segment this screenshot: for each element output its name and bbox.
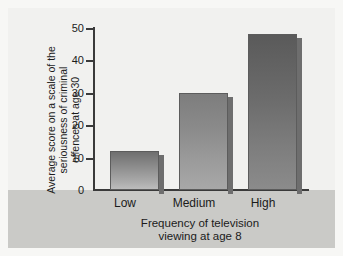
x-axis-title-line-1: Frequency of television [94, 217, 306, 230]
bar-low-body [110, 151, 159, 190]
figure-root: Average score on a scale of the seriousn… [0, 0, 343, 256]
y-axis-title-line-1: Average score on a scale of the [45, 44, 57, 196]
y-tick-label-20: 20 [72, 120, 84, 131]
x-category-label-medium: Medium [159, 196, 229, 210]
y-tick-label-20-wrap: 20 [58, 120, 84, 131]
y-tick-label-30-wrap: 30 [58, 88, 84, 99]
plot-area [94, 28, 302, 190]
bar-medium[interactable] [179, 93, 228, 190]
bar-high-shadow [297, 38, 302, 194]
y-tick-label-0: 0 [78, 185, 84, 196]
y-tick-label-40-wrap: 40 [58, 55, 84, 66]
x-axis-title: Frequency of television viewing at age 8 [94, 217, 306, 243]
y-tick-label-50: 50 [72, 23, 84, 34]
y-tick-label-50-wrap: 50 [58, 23, 84, 34]
bar-high-body [248, 34, 297, 190]
y-tick-label-10-wrap: 10 [58, 153, 84, 164]
x-category-label-low: Low [90, 196, 160, 210]
bar-medium-body [179, 93, 228, 190]
bar-high[interactable] [248, 34, 297, 190]
bar-low[interactable] [110, 151, 159, 190]
x-category-label-high: High [228, 196, 298, 210]
y-tick-label-30: 30 [72, 88, 84, 99]
y-tick-label-10: 10 [72, 153, 84, 164]
x-axis-title-line-2: viewing at age 8 [94, 230, 306, 243]
bar-low-shadow [159, 155, 164, 194]
y-tick-label-0-wrap: 0 [58, 185, 84, 196]
y-tick-label-40: 40 [72, 55, 84, 66]
bar-medium-shadow [228, 97, 233, 194]
